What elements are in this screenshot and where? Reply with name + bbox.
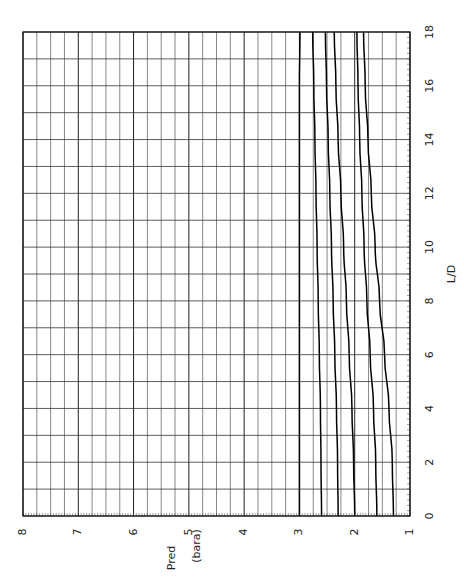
x-tick-label: 6: [423, 351, 436, 358]
y-tick-label: 3: [292, 529, 305, 536]
y-tick-label: 2: [348, 529, 361, 536]
y-tick-label: 4: [237, 529, 250, 536]
chart: 024681012141618 12345678 L/D Pred (bara): [0, 0, 464, 586]
y-axis-unit: (bara): [190, 529, 203, 563]
x-tick-label: 12: [423, 186, 436, 200]
grid: [23, 32, 410, 516]
x-tick-label: 14: [423, 133, 436, 147]
y-tick-label: 7: [71, 529, 84, 536]
x-tick-label: 0: [423, 513, 436, 520]
x-tick-label: 2: [423, 459, 436, 466]
y-tick-label: 8: [16, 529, 29, 536]
x-axis-ticks: 024681012141618: [423, 25, 436, 520]
x-tick-label: 18: [423, 25, 436, 39]
y-axis-label: Pred: [165, 546, 178, 570]
y-axis-ticks: 12345678: [16, 529, 416, 536]
x-axis-label: L/D: [445, 265, 458, 283]
x-tick-label: 16: [423, 79, 436, 93]
curve-line-1: [299, 32, 300, 516]
y-tick-label: 6: [127, 529, 140, 536]
x-tick-label: 4: [423, 405, 436, 412]
x-tick-label: 8: [423, 297, 436, 304]
y-tick-label: 1: [403, 529, 416, 536]
x-tick-label: 10: [423, 240, 436, 254]
